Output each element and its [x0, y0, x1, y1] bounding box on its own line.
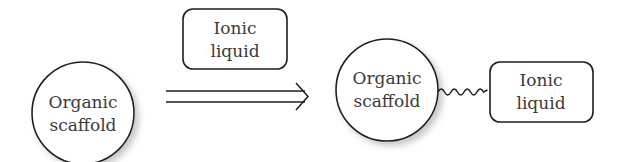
wavy-bond-icon — [438, 89, 488, 95]
reactant-organic-scaffold: Organic scaffold — [32, 62, 134, 162]
reactant-label-line2: scaffold — [49, 115, 116, 135]
product-ionic-liquid: Ionic liquid — [490, 62, 593, 122]
scaffold-circle — [32, 62, 134, 162]
reagent-ionic-liquid: Ionic liquid — [183, 9, 287, 69]
reaction-arrow-icon — [166, 83, 308, 110]
reagent-label-line2: liquid — [210, 41, 259, 61]
reagent-label-line1: Ionic — [214, 18, 257, 38]
product-organic-scaffold: Organic scaffold — [336, 39, 438, 141]
product-scaffold-label-line1: Organic — [353, 68, 422, 88]
product-ionic-liquid-label-line2: liquid — [516, 93, 565, 113]
product-scaffold-circle — [336, 39, 438, 141]
product-scaffold-label-line2: scaffold — [353, 91, 420, 111]
product-ionic-liquid-label-line1: Ionic — [520, 70, 563, 90]
diagram-canvas: Organic scaffold Ionic liquid Organic sc… — [0, 0, 627, 162]
reactant-label-line1: Organic — [49, 92, 118, 112]
